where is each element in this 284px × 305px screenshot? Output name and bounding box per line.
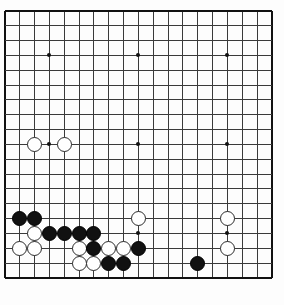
star-point xyxy=(225,53,229,57)
grid-line-horizontal xyxy=(5,40,272,41)
star-point xyxy=(136,142,140,146)
black-stone[interactable] xyxy=(57,226,72,241)
black-stone[interactable] xyxy=(131,241,146,256)
black-stone[interactable] xyxy=(72,226,87,241)
white-stone[interactable] xyxy=(101,241,116,256)
grid-line-horizontal xyxy=(5,159,272,160)
star-point xyxy=(47,53,51,57)
white-stone[interactable] xyxy=(86,256,101,271)
white-stone[interactable] xyxy=(27,241,42,256)
grid-line-horizontal xyxy=(5,85,272,86)
black-stone[interactable] xyxy=(86,226,101,241)
grid-line-horizontal xyxy=(5,70,272,71)
black-stone[interactable] xyxy=(86,241,101,256)
grid-line-horizontal xyxy=(5,277,272,279)
star-point xyxy=(225,142,229,146)
grid-line-horizontal xyxy=(5,99,272,100)
star-point xyxy=(47,142,51,146)
black-stone[interactable] xyxy=(42,226,57,241)
black-stone[interactable] xyxy=(190,256,205,271)
grid-line-horizontal xyxy=(5,129,272,130)
grid-line-horizontal xyxy=(5,25,272,26)
black-stone[interactable] xyxy=(27,211,42,226)
white-stone[interactable] xyxy=(116,241,131,256)
star-point xyxy=(136,231,140,235)
grid-line-horizontal xyxy=(5,188,272,189)
white-stone[interactable] xyxy=(27,137,42,152)
white-stone[interactable] xyxy=(220,241,235,256)
grid-line-horizontal xyxy=(5,203,272,204)
black-stone[interactable] xyxy=(101,256,116,271)
star-point xyxy=(136,53,140,57)
white-stone[interactable] xyxy=(72,241,87,256)
star-point xyxy=(225,231,229,235)
white-stone[interactable] xyxy=(131,211,146,226)
grid-line-horizontal xyxy=(5,263,272,264)
grid-line-horizontal xyxy=(5,174,272,175)
white-stone[interactable] xyxy=(12,241,27,256)
goban[interactable] xyxy=(0,0,284,305)
black-stone[interactable] xyxy=(116,256,131,271)
white-stone[interactable] xyxy=(72,256,87,271)
grid-line-horizontal xyxy=(5,114,272,115)
black-stone[interactable] xyxy=(12,211,27,226)
white-stone[interactable] xyxy=(220,211,235,226)
white-stone[interactable] xyxy=(57,137,72,152)
go-board-container xyxy=(0,0,284,305)
grid-line-horizontal xyxy=(5,10,272,12)
white-stone[interactable] xyxy=(27,226,42,241)
